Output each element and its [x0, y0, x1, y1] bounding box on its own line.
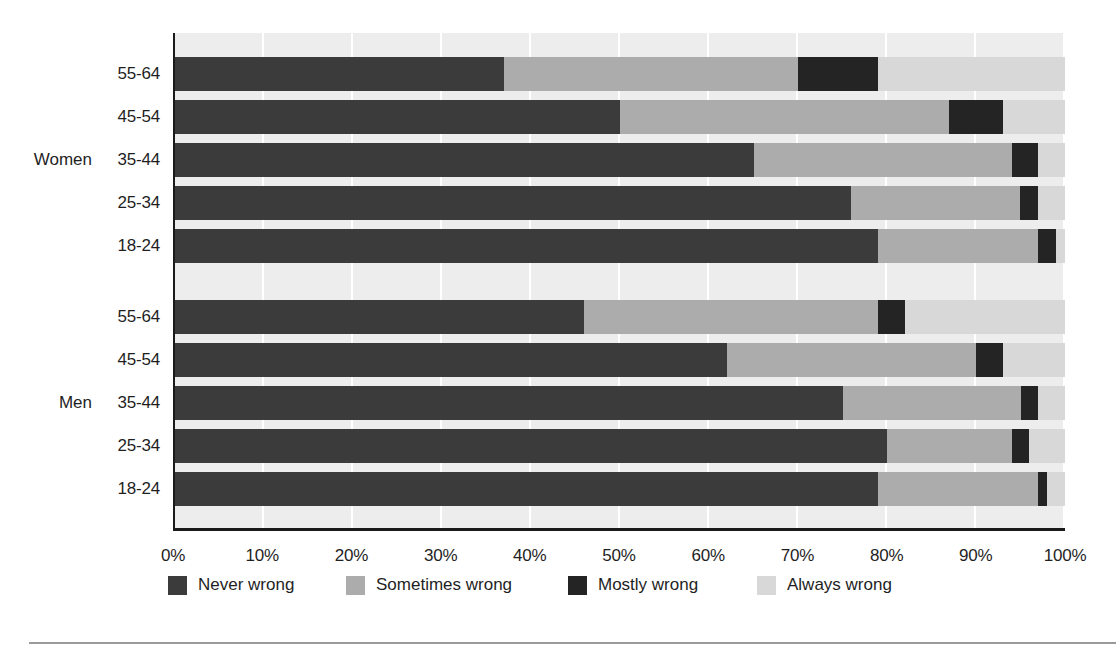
bar-segment-always: [1056, 229, 1065, 263]
bar-segment-always: [1047, 472, 1065, 506]
bar-row-men-25-34: [175, 429, 1065, 463]
x-tick-label: 60%: [673, 545, 743, 567]
age-label: 55-64: [90, 306, 160, 328]
legend-item-mostly: Mostly wrong: [568, 574, 698, 596]
legend-item-always: Always wrong: [757, 574, 892, 596]
bar-segment-sometimes: [878, 229, 1038, 263]
bar-segment-never: [175, 343, 727, 377]
x-tick-label: 30%: [406, 545, 476, 567]
bar-segment-mostly: [949, 100, 1002, 134]
legend-label: Never wrong: [198, 574, 294, 596]
bottom-divider: [29, 642, 1116, 644]
bar-segment-never: [175, 100, 620, 134]
bar-segment-mostly: [1021, 386, 1039, 420]
bar-segment-sometimes: [887, 429, 1012, 463]
x-tick-label: 20%: [316, 545, 386, 567]
legend-swatch-sometimes: [346, 576, 365, 595]
bar-segment-never: [175, 472, 878, 506]
age-label: 18-24: [90, 235, 160, 257]
bar-segment-never: [175, 300, 584, 334]
bar-segment-mostly: [976, 343, 1003, 377]
legend-label: Sometimes wrong: [376, 574, 512, 596]
group-label-men: Men: [0, 392, 92, 414]
bar-segment-never: [175, 186, 851, 220]
chart-canvas: Women Men 55-6445-5435-4425-3418-2455-64…: [0, 0, 1120, 658]
x-tick-label: 0%: [138, 545, 208, 567]
bar-segment-mostly: [1012, 429, 1030, 463]
legend-label: Always wrong: [787, 574, 892, 596]
bar-segment-always: [905, 300, 1065, 334]
x-tick-label: 10%: [227, 545, 297, 567]
bar-segment-mostly: [1020, 186, 1038, 220]
bar-segment-sometimes: [727, 343, 976, 377]
bar-segment-always: [878, 57, 1065, 91]
plot-area: [173, 33, 1065, 531]
bar-segment-mostly: [1012, 143, 1039, 177]
x-tick-label: 80%: [852, 545, 922, 567]
age-label: 25-34: [90, 192, 160, 214]
bar-segment-sometimes: [504, 57, 798, 91]
bar-segment-never: [175, 386, 843, 420]
age-label: 35-44: [90, 149, 160, 171]
bar-row-women-45-54: [175, 100, 1065, 134]
bar-row-women-25-34: [175, 186, 1065, 220]
bar-segment-never: [175, 57, 504, 91]
bar-segment-sometimes: [754, 143, 1012, 177]
bar-segment-sometimes: [851, 186, 1020, 220]
bar-segment-mostly: [1038, 472, 1047, 506]
bar-segment-always: [1038, 186, 1065, 220]
legend-item-never: Never wrong: [168, 574, 294, 596]
x-tick-label: 90%: [941, 545, 1011, 567]
bar-row-men-55-64: [175, 300, 1065, 334]
bar-segment-mostly: [798, 57, 878, 91]
bar-segment-always: [1038, 143, 1065, 177]
bar-segment-never: [175, 143, 754, 177]
bar-segment-mostly: [878, 300, 905, 334]
bar-segment-mostly: [1038, 229, 1056, 263]
bar-segment-always: [1003, 343, 1065, 377]
x-tick-label: 50%: [584, 545, 654, 567]
bar-segment-sometimes: [620, 100, 949, 134]
bar-segment-always: [1003, 100, 1065, 134]
legend-label: Mostly wrong: [598, 574, 698, 596]
legend-item-sometimes: Sometimes wrong: [346, 574, 512, 596]
age-label: 25-34: [90, 435, 160, 457]
bar-segment-never: [175, 429, 887, 463]
legend-swatch-always: [757, 576, 776, 595]
bar-segment-sometimes: [584, 300, 878, 334]
bar-segment-never: [175, 229, 878, 263]
bar-segment-always: [1029, 429, 1065, 463]
bar-row-women-55-64: [175, 57, 1065, 91]
bar-row-men-45-54: [175, 343, 1065, 377]
age-label: 55-64: [90, 63, 160, 85]
age-label: 18-24: [90, 478, 160, 500]
bar-row-women-18-24: [175, 229, 1065, 263]
bar-row-men-18-24: [175, 472, 1065, 506]
age-label: 45-54: [90, 349, 160, 371]
x-tick-label: 70%: [762, 545, 832, 567]
age-label: 45-54: [90, 106, 160, 128]
x-tick-label: 100%: [1030, 545, 1100, 567]
bar-row-men-35-44: [175, 386, 1065, 420]
legend-swatch-never: [168, 576, 187, 595]
x-tick-label: 40%: [495, 545, 565, 567]
bar-segment-sometimes: [878, 472, 1038, 506]
bar-segment-sometimes: [843, 386, 1021, 420]
legend-swatch-mostly: [568, 576, 587, 595]
bar-segment-always: [1038, 386, 1065, 420]
legend: Never wrongSometimes wrongMostly wrongAl…: [0, 574, 1120, 600]
bar-row-women-35-44: [175, 143, 1065, 177]
group-label-women: Women: [0, 149, 92, 171]
age-label: 35-44: [90, 392, 160, 414]
